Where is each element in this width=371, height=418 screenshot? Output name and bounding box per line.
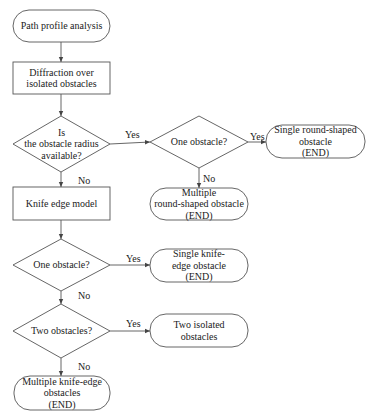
one-obstacle-round-node: One obstacle? xyxy=(150,116,248,168)
label-radius-yes: Yes xyxy=(125,130,140,140)
radius-decision-node: Isthe obstacle radiusavailable? xyxy=(13,116,110,172)
label-two-no: No xyxy=(78,362,90,372)
label-round-one-no: No xyxy=(203,174,215,184)
multiple-knife-end-node: Multiple knife-edgeobstacles(END) xyxy=(14,376,110,410)
two-obstacles-node: Two obstacles? xyxy=(13,304,110,358)
label-two-yes: Yes xyxy=(126,319,141,329)
label-round-one-yes: Yes xyxy=(250,132,265,142)
single-round-end-node: Single round-shapedobstacle(END) xyxy=(266,125,365,158)
knife-edge-model-node: Knife edge model xyxy=(13,187,110,220)
start-node: Path profile analysis xyxy=(13,10,110,42)
single-knife-end-node: Single knife-edge obstacle(END) xyxy=(150,249,248,282)
one-obstacle-knife-node: One obstacle? xyxy=(13,239,110,291)
label-radius-no: No xyxy=(78,176,90,186)
label-knife-one-no: No xyxy=(78,291,90,301)
label-knife-one-yes: Yes xyxy=(126,254,141,264)
edge-radius-yes xyxy=(110,142,150,144)
multiple-round-end-node: Multipleround-shaped obstacle(END) xyxy=(150,188,248,220)
two-isolated-node: Two isolatedobstacles xyxy=(150,314,248,347)
diffraction-node: Diffraction overisolated obstacles xyxy=(13,62,110,94)
